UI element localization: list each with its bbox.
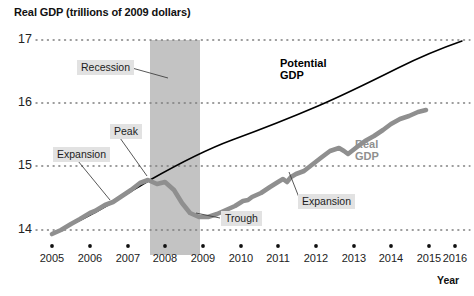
xtick-dot (201, 244, 205, 248)
x-axis-tick-2007: 2007 (108, 252, 148, 264)
x-axis-tick-2010: 2010 (221, 252, 261, 264)
xtick-dot (427, 244, 431, 248)
potential-gdp-label-line2: GDP (280, 69, 326, 81)
annotation-expansion-left: Expansion (53, 147, 110, 162)
annotation-recession: Recession (77, 60, 134, 75)
x-axis-tick-2009: 2009 (183, 252, 223, 264)
xtick-dot (276, 244, 280, 248)
xtick-dot (126, 244, 130, 248)
xtick-dot (314, 244, 318, 248)
xtick-dot (163, 244, 167, 248)
recession-band-shading (150, 40, 200, 255)
xtick-dot (453, 244, 457, 248)
potential-gdp-label: Potential GDP (280, 57, 326, 81)
annotation-expansion-right: Expansion (298, 194, 355, 209)
y-axis-tick-17: 17 (10, 32, 32, 46)
x-axis-tick-2014: 2014 (371, 252, 411, 264)
peak-leader (120, 138, 147, 176)
xtick-dot (389, 244, 393, 248)
y-axis-tick-15: 15 (10, 158, 32, 172)
x-axis-tick-2005: 2005 (32, 252, 72, 264)
x-axis-tick-2013: 2013 (334, 252, 374, 264)
xtick-dot (239, 244, 243, 248)
annotation-peak: Peak (110, 124, 142, 139)
potential-gdp-label-line1: Potential (280, 57, 326, 69)
expansion-left-leader (78, 161, 110, 200)
x-axis-tick-2012: 2012 (296, 252, 336, 264)
y-axis-tick-14: 14 (10, 222, 32, 236)
x-axis-tick-dots (50, 244, 457, 248)
y-axis-tick-16: 16 (10, 95, 32, 109)
x-axis-tick-2006: 2006 (70, 252, 110, 264)
x-axis-title: Year (437, 274, 459, 286)
xtick-dot (88, 244, 92, 248)
annotation-trough: Trough (221, 211, 262, 226)
real-gdp-label-line2: GDP (355, 150, 379, 162)
real-gdp-label: Real GDP (355, 138, 379, 162)
xtick-dot (352, 244, 356, 248)
x-axis-tick-2011: 2011 (258, 252, 298, 264)
x-axis-tick-2016: 2016 (435, 252, 474, 264)
x-axis-tick-2008: 2008 (145, 252, 185, 264)
chart-figure: Real GDP (trillions of 2009 dollars) (0, 0, 474, 296)
xtick-dot (50, 244, 54, 248)
real-gdp-label-line1: Real (355, 138, 379, 150)
